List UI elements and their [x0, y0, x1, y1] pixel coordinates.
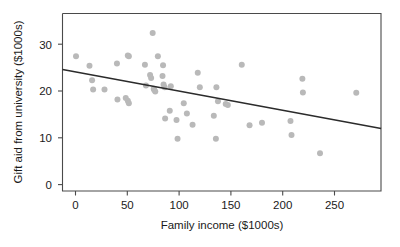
x-tick-label-0: 0 [72, 199, 78, 211]
x-tick-label-250: 250 [325, 199, 344, 211]
x-axis-title: Family income ($1000s) [161, 219, 284, 231]
data-point [190, 122, 196, 128]
regression-line [63, 69, 382, 128]
y-axis-ticks [58, 44, 63, 184]
data-point [150, 30, 156, 36]
x-tick-label-50: 50 [121, 199, 134, 211]
data-point [167, 108, 173, 114]
data-point [225, 102, 231, 108]
y-tick-label-0: 0 [46, 179, 52, 191]
regression-line-group [63, 69, 382, 128]
y-tick-label-10: 10 [39, 132, 52, 144]
data-point [148, 75, 154, 81]
data-point [86, 63, 92, 69]
data-point [289, 132, 295, 138]
data-point [175, 136, 181, 142]
data-point [300, 89, 306, 95]
data-point [152, 88, 158, 94]
y-tick-label-20: 20 [39, 85, 52, 97]
scatter-plot-figure: 30 20 10 0 0 50 100 150 200 250 Family i… [0, 0, 400, 247]
data-point [213, 84, 219, 90]
data-points-group [73, 30, 359, 156]
data-point [90, 87, 96, 93]
x-axis-ticks [76, 191, 335, 196]
data-point [317, 150, 323, 156]
data-point [197, 84, 203, 90]
data-point [126, 100, 132, 106]
data-point [114, 60, 120, 66]
data-point [353, 90, 359, 96]
data-point [174, 117, 180, 123]
data-point [259, 120, 265, 126]
data-point [162, 116, 168, 122]
data-point [155, 53, 161, 59]
data-point [160, 73, 166, 79]
data-point [213, 136, 219, 142]
data-point [89, 77, 95, 83]
data-point [287, 118, 293, 124]
y-axis-tick-labels: 30 20 10 0 [39, 39, 52, 191]
x-tick-label-200: 200 [273, 199, 292, 211]
data-point [181, 100, 187, 106]
data-point [247, 122, 253, 128]
data-point [195, 70, 201, 76]
data-point [114, 96, 120, 102]
y-axis-title: Gift aid from university ($1000s) [12, 20, 24, 183]
data-point [160, 62, 166, 68]
x-tick-label-100: 100 [170, 199, 189, 211]
x-tick-label-150: 150 [221, 199, 240, 211]
data-point [73, 53, 79, 59]
data-point [239, 62, 245, 68]
data-point [142, 62, 148, 68]
data-point [102, 87, 108, 93]
chart-canvas: 30 20 10 0 0 50 100 150 200 250 Family i… [0, 0, 400, 247]
x-axis-tick-labels: 0 50 100 150 200 250 [72, 199, 344, 211]
data-point [299, 76, 305, 82]
data-point [126, 53, 132, 59]
data-point [184, 110, 190, 116]
y-tick-label-30: 30 [39, 39, 52, 51]
plot-frame [63, 14, 382, 192]
data-point [211, 113, 217, 119]
